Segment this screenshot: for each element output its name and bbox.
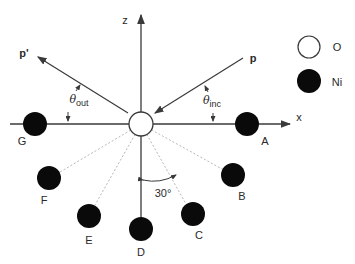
legend-nickel-label: Ni xyxy=(332,77,342,88)
z-axis-label: z xyxy=(122,15,128,26)
oxygen-atom xyxy=(129,112,153,136)
ni-atom-c xyxy=(181,202,205,226)
bond-e xyxy=(95,124,141,205)
theta-symbol: θ xyxy=(203,94,210,107)
atom-label-g: G xyxy=(18,136,27,147)
incident-vector-label: p xyxy=(250,53,257,64)
theta-inc-arrow-top xyxy=(205,86,208,92)
theta-out-arrow-top xyxy=(76,85,80,91)
atom-label-f: F xyxy=(41,195,48,206)
x-axis-label: x xyxy=(296,112,302,123)
ni-atom-a xyxy=(235,112,259,136)
atom-label-a: A xyxy=(261,136,268,147)
sector-angle-label: 30° xyxy=(155,188,172,199)
legend-oxygen-label: O xyxy=(333,42,342,53)
incident-vector xyxy=(155,58,243,113)
atom-label-b: B xyxy=(238,191,245,202)
theta-out-label: θout xyxy=(69,94,88,109)
ni-atom-d xyxy=(129,217,153,241)
theta-out-subscript: out xyxy=(76,98,89,108)
atom-label-d: D xyxy=(137,247,145,258)
theta-inc-label: θinc xyxy=(203,95,221,110)
outgoing-vector-label: p' xyxy=(19,48,28,59)
theta-inc-subscript: inc xyxy=(210,99,222,109)
atom-label-e: E xyxy=(85,235,92,246)
atom-label-c: C xyxy=(195,230,203,241)
ni-atom-f xyxy=(37,166,61,190)
ni-atom-g xyxy=(23,112,47,136)
diagram-canvas xyxy=(0,0,355,264)
theta-symbol: θ xyxy=(69,93,76,106)
legend-oxygen-icon xyxy=(298,36,320,58)
legend-nickel-icon xyxy=(297,69,321,93)
bond-f xyxy=(60,124,141,172)
ni-atom-b xyxy=(221,163,245,187)
ni-atom-e xyxy=(77,204,101,228)
